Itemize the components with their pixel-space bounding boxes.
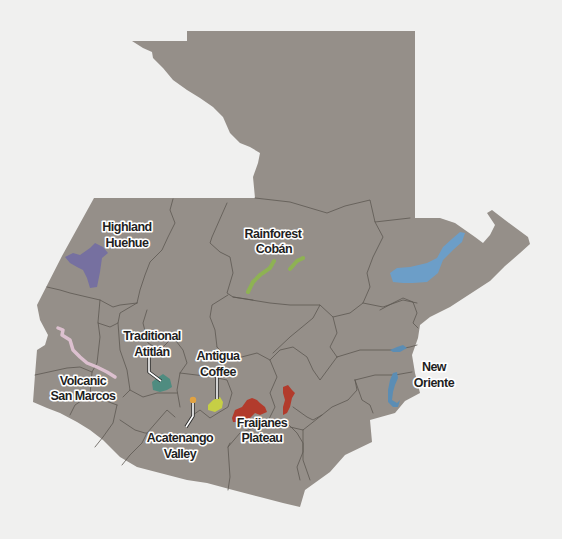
label-rainforest-coban-line2: Cobán <box>256 242 292 256</box>
label-volcanic-san-marcos-line2: San Marcos <box>50 389 116 403</box>
label-traditional-atitlan-line2: Atitlán <box>134 345 169 359</box>
label-highland-huehue-line1: Highland <box>102 220 151 234</box>
label-fraijanes-plateau-line1: Fraijanes <box>237 416 288 430</box>
acatenango-valley-area <box>190 397 196 403</box>
label-antigua-coffee-line1: Antigua <box>196 349 241 363</box>
label-fraijanes-plateau-line2: Plateau <box>242 431 283 445</box>
label-rainforest-coban-line1: Rainforest <box>245 227 303 241</box>
label-acatenango-valley-line1: Acatenango <box>147 431 214 445</box>
label-new-oriente-line2: Oriente <box>414 376 455 390</box>
label-new-oriente-line1: New <box>422 360 447 374</box>
label-highland-huehue-line2: Huehue <box>106 236 149 250</box>
label-acatenango-valley-line2: Valley <box>164 447 197 461</box>
label-antigua-coffee-line2: Coffee <box>200 365 236 379</box>
label-traditional-atitlan-line1: Traditional <box>123 329 181 343</box>
label-volcanic-san-marcos-line1: Volcanic <box>60 374 107 388</box>
coffee-regions-map: Highland Huehue Rainforest Cobán Traditi… <box>0 0 562 539</box>
